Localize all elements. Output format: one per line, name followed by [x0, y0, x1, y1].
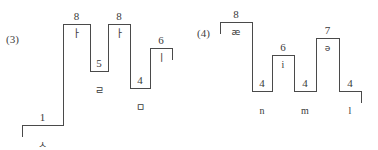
panel-4-segment-2-symbol: n [250, 106, 274, 116]
panel-4: (4) 8 æ 4 n 6 i 4 m 7 ə 4 l [189, 0, 378, 150]
panel-4-segment-4-level: 4 [293, 78, 317, 89]
panel-4-segment-6-symbol: l [338, 106, 362, 116]
panel-4-segment-2-level: 4 [250, 78, 274, 89]
panel-4-segment-1-symbol: æ [224, 27, 248, 37]
panel-3-segment-2-level: 8 [65, 11, 89, 22]
phonetic-contour-figure: (3) 1 ㅅ 8 ㅏ 5 ㄹ 8 ㅏ 4 ㅁ 6 ㅣ (4) 8 æ 4 [0, 0, 378, 150]
panel-3: (3) 1 ㅅ 8 ㅏ 5 ㄹ 8 ㅏ 4 ㅁ 6 ㅣ [0, 0, 189, 150]
panel-3-segment-6-symbol: ㅣ [149, 53, 173, 63]
panel-3-segment-3-level: 5 [87, 58, 111, 69]
panel-3-segment-4-level: 8 [107, 11, 131, 22]
panel-4-segment-3-symbol: i [271, 60, 295, 70]
panel-3-segment-3-symbol: ㄹ [87, 86, 111, 96]
panel-3-segment-1-symbol: ㅅ [31, 140, 55, 150]
panel-3-segment-6-level: 6 [149, 35, 173, 46]
panel-4-segment-4-symbol: m [293, 106, 317, 116]
panel-3-segment-1-level: 1 [31, 112, 55, 123]
panel-3-segment-5-symbol: ㅁ [128, 103, 152, 113]
panel-4-segment-1-level: 8 [224, 9, 248, 20]
panel-3-contour-line [0, 0, 189, 150]
panel-4-segment-5-symbol: ə [316, 43, 340, 53]
panel-3-segment-5-level: 4 [128, 75, 152, 86]
panel-3-segment-2-symbol: ㅏ [65, 29, 89, 39]
panel-4-segment-5-level: 7 [316, 25, 340, 36]
panel-3-segment-4-symbol: ㅏ [107, 29, 131, 39]
panel-4-contour-line [189, 0, 378, 150]
panel-4-segment-3-level: 6 [271, 42, 295, 53]
panel-4-segment-6-level: 4 [338, 78, 362, 89]
